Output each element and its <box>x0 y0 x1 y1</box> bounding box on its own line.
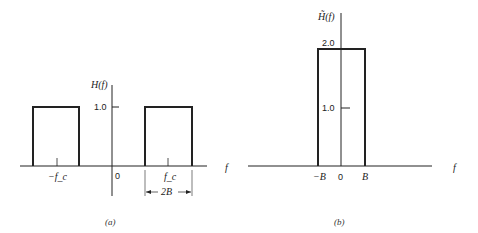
panel-b <box>248 13 432 166</box>
arrowhead-right-icon <box>186 190 191 194</box>
panel-b-tick-label-zero: 0 <box>338 172 343 182</box>
panel-a-left-pulse <box>33 107 79 166</box>
panel-b-y-tick-label-1: 1.0 <box>322 103 335 113</box>
panel-a-bandwidth-label: 2B <box>161 186 172 197</box>
panel-a-y-label: H(f) <box>90 79 108 91</box>
panel-a-tick-label-neg-fc: −f_c <box>48 171 68 182</box>
panel-a-x-label: f <box>225 162 229 173</box>
panel-b-tick-label-b: B <box>362 171 368 182</box>
panel-b-y-tick-label-2: 2.0 <box>322 38 335 48</box>
arrowhead-left-icon <box>146 190 151 194</box>
panel-b-tick-label-neg-b: −B <box>313 171 326 182</box>
panel-a-tick-label-zero: 0 <box>115 171 120 181</box>
panel-b-caption: (b) <box>334 217 345 227</box>
panel-a-caption: (a) <box>105 217 116 227</box>
panel-a-y-tick-label: 1.0 <box>94 102 107 112</box>
panel-a-tick-label-fc: f_c <box>164 171 177 182</box>
panel-a-right-pulse <box>145 107 192 166</box>
panel-b-x-label: f <box>453 162 457 173</box>
panel-b-y-label: H̃(f) <box>317 10 335 23</box>
